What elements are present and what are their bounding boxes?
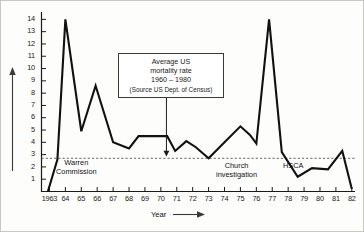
x-tick-label-1978: 78 — [281, 195, 295, 203]
y-tick-label-12: 12 — [19, 40, 35, 48]
x-tick-label-1973: 73 — [202, 195, 216, 203]
x-axis-title: Year — [151, 210, 166, 219]
x-tick-label-1980: 80 — [313, 195, 327, 203]
x-axis-arrow — [173, 211, 205, 217]
y-tick-label-1: 1 — [19, 175, 35, 183]
y-tick-label-13: 13 — [19, 27, 35, 35]
y-tick-label-2: 2 — [19, 163, 35, 171]
y-tick-label-11: 11 — [19, 52, 35, 60]
y-tick-label-7: 7 — [19, 101, 35, 109]
x-tick-label-1965: 65 — [74, 195, 88, 203]
x-tick-label-1979: 79 — [297, 195, 311, 203]
x-tick-label-1968: 68 — [122, 195, 136, 203]
x-tick-label-1977: 77 — [265, 195, 279, 203]
note-warren-line-1: Warren — [56, 158, 97, 167]
y-tick-label-4: 4 — [19, 138, 35, 146]
annotation-box: Average US mortality rate 1960 – 1980 (S… — [118, 53, 224, 98]
x-tick-label-1967: 67 — [106, 195, 120, 203]
x-tick-label-1970: 70 — [154, 195, 168, 203]
x-tick-label-1972: 72 — [186, 195, 200, 203]
annotation-source: (Source US Dept. of Census) — [121, 85, 221, 94]
x-tick-label-1981: 81 — [329, 195, 343, 203]
chart-figure: 1234567891011121314 19636465666768697071… — [0, 0, 364, 232]
y-tick-label-3: 3 — [19, 150, 35, 158]
x-tick-label-1971: 71 — [170, 195, 184, 203]
x-tick-label-1969: 69 — [138, 195, 152, 203]
note-church-investigation: Church investigation — [216, 161, 257, 179]
note-hsca: HSCA — [283, 161, 304, 170]
note-warren-line-2: Commission — [56, 167, 97, 176]
x-tick-label-1982: 82 — [345, 195, 359, 203]
y-tick-label-9: 9 — [19, 76, 35, 84]
y-tick-label-6: 6 — [19, 113, 35, 121]
y-axis-arrow — [9, 67, 15, 171]
x-tick-label-1964: 64 — [58, 195, 72, 203]
y-axis-ticks — [42, 19, 47, 179]
y-tick-label-5: 5 — [19, 126, 35, 134]
y-tick-label-10: 10 — [19, 64, 35, 72]
x-axis-ticks — [49, 187, 351, 192]
y-tick-label-8: 8 — [19, 89, 35, 97]
x-tick-label-1975: 75 — [233, 195, 247, 203]
note-hsca-line-1: HSCA — [283, 161, 304, 170]
note-church-line-2: investigation — [216, 170, 257, 179]
note-warren-commission: Warren Commission — [56, 158, 97, 176]
note-church-line-1: Church — [216, 161, 257, 170]
x-tick-label-1974: 74 — [218, 195, 232, 203]
annotation-line-3: 1960 – 1980 — [121, 75, 221, 84]
y-tick-label-14: 14 — [19, 15, 35, 23]
x-tick-label-1966: 66 — [90, 195, 104, 203]
x-tick-label-1976: 76 — [249, 195, 263, 203]
annotation-line-1: Average US — [121, 57, 221, 66]
annotation-line-2: mortality rate — [121, 66, 221, 75]
